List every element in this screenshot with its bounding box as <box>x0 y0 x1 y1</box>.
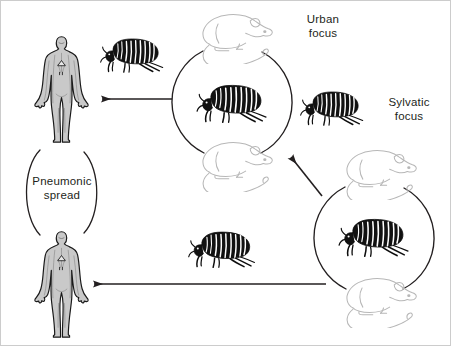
label-urban-focus: Urban focus <box>288 13 358 40</box>
label-pneumonic-spread: Pneumonic spread <box>18 175 106 202</box>
diagram-canvas <box>0 0 451 346</box>
label-sylvatic-focus: Sylvatic focus <box>372 96 446 123</box>
plague-transmission-diagram: Urban focus Sylvatic focus Pneumonic spr… <box>0 0 451 346</box>
